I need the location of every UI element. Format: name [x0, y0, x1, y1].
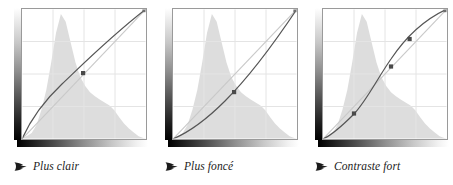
curve-graph — [323, 9, 447, 139]
curve-plot-area[interactable] — [172, 8, 298, 140]
input-gradient-ramp — [168, 140, 299, 147]
curve-box — [14, 5, 148, 153]
curve-box — [315, 5, 449, 153]
curve-control-point[interactable] — [81, 71, 85, 75]
arrow-right-bullet-icon — [165, 161, 178, 172]
panel-caption: Plus foncé — [165, 158, 233, 174]
caption-label: Contraste fort — [334, 160, 400, 172]
curve-plot-area[interactable] — [21, 8, 147, 140]
curve-panel-contraste-fort: Contraste fort — [301, 0, 449, 185]
curve-endpoint-white[interactable] — [443, 9, 447, 12]
arrow-right-bullet-icon — [315, 161, 328, 172]
curve-panel-plus-clair: Plus clair — [0, 0, 148, 185]
output-gradient-ramp — [315, 8, 322, 140]
caption-label: Plus clair — [33, 160, 79, 172]
curve-control-point[interactable] — [389, 64, 393, 68]
curve-control-point[interactable] — [232, 90, 236, 94]
curve-plot-area[interactable] — [322, 8, 448, 140]
curve-box — [165, 5, 299, 153]
output-gradient-ramp — [165, 8, 172, 140]
curve-control-point[interactable] — [408, 37, 412, 41]
arrow-right-bullet-icon — [14, 161, 27, 172]
panel-caption: Contraste fort — [315, 158, 400, 174]
input-gradient-ramp — [17, 140, 148, 147]
tone-curve-figure: Plus clair — [0, 0, 453, 185]
curve-endpoint-white[interactable] — [293, 9, 297, 12]
curve-graph — [173, 9, 297, 139]
output-gradient-ramp — [14, 8, 21, 140]
caption-label: Plus foncé — [184, 160, 233, 172]
input-gradient-ramp — [318, 140, 449, 147]
curve-control-point[interactable] — [352, 111, 356, 115]
curve-graph — [22, 9, 146, 139]
curve-endpoint-white[interactable] — [142, 9, 146, 12]
panel-caption: Plus clair — [14, 158, 79, 174]
curve-panel-plus-fonce: Plus foncé — [151, 0, 299, 185]
